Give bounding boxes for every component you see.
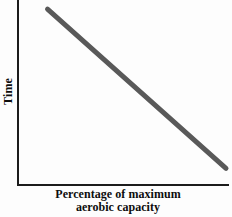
x-axis-title-line-2: aerobic capacity [18, 201, 218, 214]
line-series [0, 0, 232, 188]
plot-area [0, 0, 232, 188]
y-axis-title: Time [1, 67, 16, 117]
x-axis-title: Percentage of maximum aerobic capacity [18, 188, 218, 214]
series-line-segment [48, 9, 226, 168]
x-axis-title-line-1: Percentage of maximum [55, 187, 180, 201]
chart-figure: Time Percentage of maximum aerobic capac… [0, 0, 232, 217]
